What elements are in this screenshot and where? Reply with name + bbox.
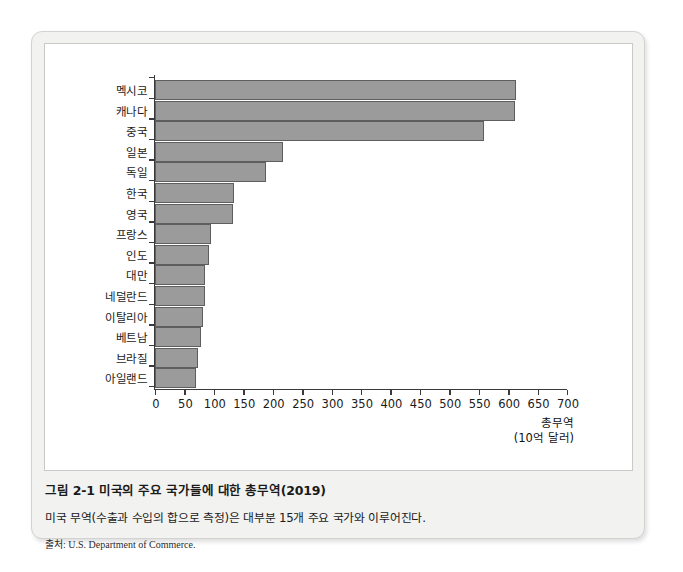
caption-source: 출처: U.S. Department of Commerce. [45, 536, 625, 551]
bar-row: 프랑스 [155, 224, 211, 244]
bar-row: 한국 [155, 183, 234, 203]
caption-description: 미국 무역(수출과 수입의 합으로 측정)은 대부분 15개 주요 국가와 이루… [45, 508, 625, 525]
bar [155, 121, 484, 141]
bar-category-label: 한국 [126, 185, 148, 201]
bar [155, 286, 205, 306]
y-axis-tick [149, 77, 154, 78]
bar-row: 일본 [155, 142, 283, 162]
x-axis-tick-label: 650 [528, 397, 550, 411]
bar [155, 307, 203, 327]
bar-category-label: 대만 [126, 267, 148, 283]
bar-row: 대만 [155, 265, 205, 285]
x-axis-tick-label: 450 [410, 397, 432, 411]
bar-category-label: 일본 [126, 144, 148, 160]
y-axis-tick [149, 365, 154, 366]
x-axis-tick-label: 50 [178, 397, 193, 411]
x-axis-tick-label: 350 [351, 397, 373, 411]
x-axis-title: 총무역 (10억 달러) [45, 416, 574, 446]
bar-category-label: 베트남 [116, 329, 148, 345]
x-axis-tick-label: 300 [322, 397, 344, 411]
y-axis-tick [149, 242, 154, 243]
bar-row: 브라질 [155, 348, 198, 368]
y-axis-tick [149, 139, 154, 140]
figure-caption: 그림 2-1 미국의 주요 국가들에 대한 총무역(2019) 미국 무역(수출… [45, 480, 625, 551]
x-axis-tick-label: 250 [292, 397, 314, 411]
bar [155, 204, 233, 224]
bar-category-label: 캐나다 [116, 103, 148, 119]
x-axis-tick [538, 390, 539, 395]
y-axis-tick [149, 159, 154, 160]
bar-row: 베트남 [155, 327, 201, 347]
bar-category-label: 독일 [126, 164, 148, 180]
bar-category-label: 영국 [126, 206, 148, 222]
bar-category-label: 멕시코 [116, 82, 148, 98]
bar-row: 멕시코 [155, 80, 516, 100]
bar-category-label: 이탈리아 [105, 309, 148, 325]
bar-category-label: 중국 [126, 123, 148, 139]
x-axis-tick [302, 390, 303, 395]
bar-category-label: 아일랜드 [105, 370, 148, 386]
bar [155, 80, 516, 100]
bar [155, 162, 266, 182]
y-axis-tick [149, 118, 154, 119]
x-axis-tick-label: 0 [152, 397, 159, 411]
bar-row: 영국 [155, 204, 233, 224]
bar [155, 224, 211, 244]
bar-category-label: 네덜란드 [105, 288, 148, 304]
bar-row: 캐나다 [155, 101, 515, 121]
x-axis-title-unit: (10억 달러) [45, 431, 574, 446]
x-axis-title-main: 총무역 [45, 416, 574, 431]
x-axis-tick [184, 390, 185, 395]
x-axis-tick-label: 500 [439, 397, 461, 411]
bar [155, 183, 234, 203]
y-axis-tick [149, 304, 154, 305]
bar-row: 네덜란드 [155, 286, 205, 306]
y-axis-tick [149, 345, 154, 346]
chart-panel: 멕시코캐나다중국일본독일한국영국프랑스인도대만네덜란드이탈리아베트남브라질아일랜… [44, 43, 633, 471]
bar [155, 327, 201, 347]
x-axis-tick [390, 390, 391, 395]
bar-category-label: 프랑스 [116, 226, 148, 242]
y-axis-tick [149, 324, 154, 325]
bar-row: 중국 [155, 121, 484, 141]
x-axis-tick [449, 390, 450, 395]
y-axis-tick [149, 98, 154, 99]
y-axis-tick [149, 201, 154, 202]
x-axis-tick [567, 390, 568, 395]
figure-card: 멕시코캐나다중국일본독일한국영국프랑스인도대만네덜란드이탈리아베트남브라질아일랜… [31, 31, 645, 539]
y-axis-tick [149, 262, 154, 263]
bar [155, 245, 209, 265]
y-axis-tick [149, 283, 154, 284]
x-axis-tick [508, 390, 509, 395]
x-axis-tick [479, 390, 480, 395]
x-axis-tick [361, 390, 362, 395]
x-axis-tick [273, 390, 274, 395]
bar [155, 368, 196, 388]
bar [155, 142, 283, 162]
bar-row: 아일랜드 [155, 368, 196, 388]
x-axis-tick-label: 150 [233, 397, 255, 411]
bar [155, 265, 205, 285]
x-axis-tick-label: 200 [263, 397, 285, 411]
bar-row: 인도 [155, 245, 209, 265]
bar-row: 이탈리아 [155, 307, 203, 327]
x-axis-tick [214, 390, 215, 395]
x-axis-tick-label: 100 [204, 397, 226, 411]
caption-title: 그림 2-1 미국의 주요 국가들에 대한 총무역(2019) [45, 480, 625, 499]
x-axis-tick [155, 390, 156, 395]
bar-category-label: 브라질 [116, 350, 148, 366]
bar [155, 348, 198, 368]
bar-chart-plot: 멕시코캐나다중국일본독일한국영국프랑스인도대만네덜란드이탈리아베트남브라질아일랜… [45, 44, 632, 470]
y-axis-tick [149, 386, 154, 387]
bar [155, 101, 515, 121]
x-axis-tick-label: 400 [380, 397, 402, 411]
x-axis-tick [420, 390, 421, 395]
x-axis-tick-label: 550 [469, 397, 491, 411]
bar-category-label: 인도 [126, 247, 148, 263]
bar-row: 독일 [155, 162, 266, 182]
x-axis-tick-label: 600 [498, 397, 520, 411]
x-axis-tick [332, 390, 333, 395]
x-axis-tick [243, 390, 244, 395]
y-axis-tick [149, 221, 154, 222]
y-axis-tick [149, 180, 154, 181]
